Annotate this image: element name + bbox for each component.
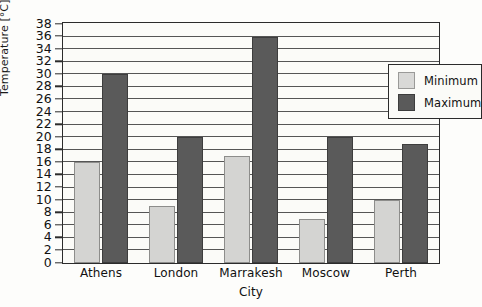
y-tick-label: 30 (36, 68, 52, 81)
bar-athens-minimum (74, 162, 100, 263)
y-tick-mark (55, 73, 62, 74)
y-axis-labels: 02468101214161820222426283032343638 (0, 0, 60, 307)
y-tick-label: 18 (36, 143, 52, 156)
legend-item-maximum: Maximum (398, 94, 481, 111)
y-tick-mark (55, 136, 62, 137)
y-tick-mark (55, 211, 62, 212)
legend-label-minimum: Minimum (424, 74, 478, 88)
y-tick-label: 4 (44, 231, 52, 244)
y-tick-label: 12 (36, 181, 52, 194)
legend-item-minimum: Minimum (398, 72, 478, 89)
y-tick-mark (55, 174, 62, 175)
bar-athens-maximum (102, 74, 128, 263)
legend: Minimum Maximum (388, 64, 482, 119)
y-tick-label: 28 (36, 80, 52, 93)
bar-marrakesh-maximum (252, 37, 278, 263)
x-axis-labels: AthensLondonMarrakeshMoscowPerth (62, 266, 440, 284)
x-tick-label: Moscow (302, 266, 350, 280)
x-tick-label: Perth (385, 266, 417, 280)
bar-perth-minimum (374, 200, 400, 263)
y-tick-label: 2 (44, 244, 52, 257)
y-tick-label: 10 (36, 193, 52, 206)
y-tick-mark (55, 149, 62, 150)
bars-layer (63, 23, 439, 263)
legend-label-maximum: Maximum (424, 96, 481, 110)
bar-moscow-maximum (327, 137, 353, 263)
y-tick-mark (55, 237, 62, 238)
y-tick-label: 34 (36, 42, 52, 55)
y-tick-label: 38 (36, 17, 52, 30)
y-tick-mark (55, 249, 62, 250)
y-tick-mark (55, 98, 62, 99)
y-tick-label: 22 (36, 118, 52, 131)
x-axis-title: City (62, 285, 440, 299)
bar-perth-maximum (402, 144, 428, 264)
y-tick-mark (55, 86, 62, 87)
y-tick-label: 24 (36, 105, 52, 118)
bar-london-maximum (177, 137, 203, 263)
y-tick-mark (55, 48, 62, 49)
x-tick-label: London (154, 266, 199, 280)
y-tick-mark (55, 161, 62, 162)
plot-area: Minimum Maximum (62, 22, 440, 264)
y-tick-mark (55, 199, 62, 200)
y-tick-mark (55, 123, 62, 124)
y-tick-mark (55, 186, 62, 187)
y-tick-mark (55, 35, 62, 36)
y-tick-label: 26 (36, 93, 52, 106)
bar-marrakesh-minimum (224, 156, 250, 263)
legend-swatch-maximum (398, 94, 415, 111)
y-tick-label: 36 (36, 30, 52, 43)
bar-moscow-minimum (299, 219, 325, 263)
bar-london-minimum (149, 206, 175, 263)
legend-swatch-minimum (398, 72, 415, 89)
y-tick-mark (55, 23, 62, 24)
y-tick-label: 20 (36, 130, 52, 143)
x-tick-label: Athens (80, 266, 122, 280)
y-tick-label: 14 (36, 168, 52, 181)
y-tick-label: 6 (44, 219, 52, 232)
y-tick-mark (55, 111, 62, 112)
y-tick-label: 8 (44, 206, 52, 219)
y-tick-mark (55, 61, 62, 62)
y-tick-mark (55, 262, 62, 263)
y-tick-mark (55, 224, 62, 225)
y-tick-label: 16 (36, 156, 52, 169)
y-tick-label: 0 (44, 256, 52, 269)
x-tick-label: Marrakesh (219, 266, 282, 280)
y-tick-label: 32 (36, 55, 52, 68)
